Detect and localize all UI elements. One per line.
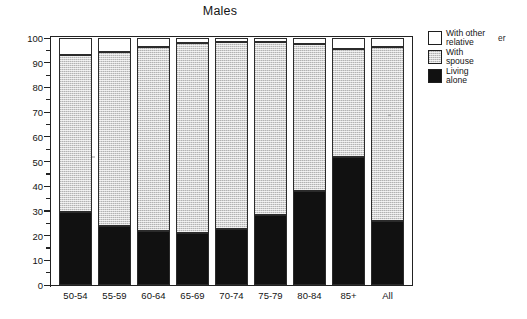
bar-6064	[137, 38, 170, 285]
bar-8084	[293, 38, 326, 285]
bar-segment-living-alone	[137, 231, 170, 285]
legend-swatch-spouse	[428, 50, 442, 64]
legend-item: With other relative	[428, 30, 523, 49]
y-axis-tick-label: 100	[1, 33, 43, 44]
bar-All	[371, 38, 404, 285]
plot-frame-top	[50, 36, 413, 37]
plot-frame-right	[412, 36, 413, 286]
bar-segment-with-other-relative	[371, 38, 404, 47]
x-axis-line	[50, 285, 413, 286]
bar-segment-living-alone	[215, 229, 248, 285]
y-axis-tick-label: 40	[1, 181, 43, 192]
legend-item: Living alone	[428, 68, 523, 87]
bar-5559	[98, 38, 131, 285]
y-axis-tick-label: 30	[1, 205, 43, 216]
bar-7074	[215, 38, 248, 285]
bar-segment-with-other-relative	[215, 38, 248, 42]
y-axis-tick-label: 50	[1, 156, 43, 167]
scan-speckle	[92, 156, 95, 158]
bar-segment-with-spouse	[98, 52, 131, 226]
y-axis-tick-label: 0	[1, 280, 43, 291]
y-axis-tick-label: 60	[1, 131, 43, 142]
bar-segment-with-spouse	[176, 43, 209, 233]
bar-6569	[176, 38, 209, 285]
bar-85	[332, 38, 365, 285]
bar-segment-with-spouse	[59, 55, 92, 212]
bar-segment-with-other-relative	[137, 38, 170, 47]
bar-segment-living-alone	[59, 212, 92, 285]
bar-segment-with-other-relative	[176, 38, 209, 43]
plot-area	[50, 38, 412, 285]
bar-segment-with-other-relative	[293, 38, 326, 44]
legend-swatch-alone	[428, 69, 442, 83]
legend: With other relativeWith spouseLiving alo…	[428, 30, 523, 87]
scan-speckle	[388, 114, 391, 116]
bar-segment-with-spouse	[254, 42, 287, 215]
bar-segment-living-alone	[98, 226, 131, 285]
y-axis-tick-label: 20	[1, 230, 43, 241]
bar-segment-with-spouse	[371, 47, 404, 221]
legend-label: With spouse	[446, 48, 508, 67]
bar-segment-with-spouse	[332, 49, 365, 156]
y-axis-tick-label: 70	[1, 107, 43, 118]
x-axis-tick-labels: 50-5455-5960-6465-6970-7475-7980-8485+Al…	[50, 290, 413, 306]
bar-segment-with-other-relative	[254, 38, 287, 42]
y-axis-tick-label: 80	[1, 82, 43, 93]
stacked-bar-chart: Males 0102030405060708090100 50-5455-596…	[0, 0, 527, 319]
bar-segment-with-other-relative	[59, 38, 92, 55]
scan-speckle	[320, 116, 322, 118]
y-axis-tick-labels: 0102030405060708090100	[0, 38, 43, 285]
legend-swatch-other	[428, 31, 442, 45]
x-axis-tick-label: All	[365, 290, 410, 301]
bar-segment-with-spouse	[215, 42, 248, 230]
bar-segment-living-alone	[371, 221, 404, 285]
legend-label: Living alone	[446, 67, 508, 86]
bar-segment-living-alone	[254, 215, 287, 285]
bar-5054	[59, 38, 92, 285]
bar-segment-living-alone	[293, 191, 326, 285]
y-axis-tick-label: 90	[1, 57, 43, 68]
stray-text-artifact: er	[498, 33, 505, 43]
bar-7579	[254, 38, 287, 285]
bar-segment-with-other-relative	[98, 38, 131, 52]
bar-segment-with-spouse	[137, 47, 170, 231]
bar-segment-living-alone	[332, 157, 365, 285]
bar-segment-with-other-relative	[332, 38, 365, 49]
y-axis-tick-label: 10	[1, 255, 43, 266]
legend-item: With spouse	[428, 49, 523, 68]
bar-segment-living-alone	[176, 233, 209, 285]
chart-title: Males	[0, 4, 440, 18]
